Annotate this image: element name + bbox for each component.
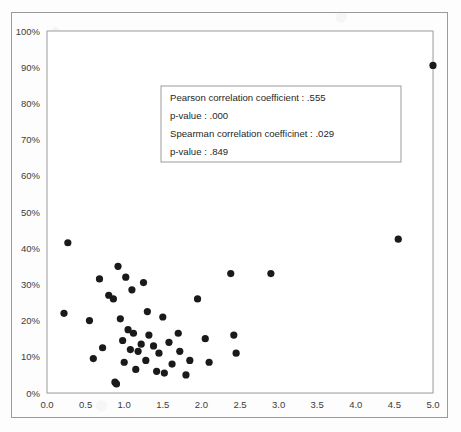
y-axis-tick-label: 50% — [21, 207, 41, 218]
y-axis-tick-label: 40% — [21, 243, 41, 254]
x-axis-tick-label: 5.0 — [426, 399, 439, 410]
data-point-marker — [267, 270, 274, 277]
x-axis-tick-label: 2.5 — [233, 399, 246, 410]
data-point-marker — [176, 348, 183, 355]
data-point-marker — [150, 342, 157, 349]
figure-page: 0%10%20%30%40%50%60%70%80%90%100% 0.00.5… — [0, 0, 461, 432]
data-point-marker — [86, 317, 93, 324]
data-point-marker — [90, 355, 97, 362]
data-point-marker — [138, 341, 145, 348]
data-point-marker — [395, 236, 402, 243]
data-point-marker — [165, 339, 172, 346]
x-axis-tick-labels: 0.00.51.01.52.02.53.03.54.04.55.0 — [40, 399, 439, 410]
data-point-marker — [233, 350, 240, 357]
y-axis-tick-label: 10% — [21, 351, 41, 362]
y-axis-tick-label: 0% — [26, 388, 40, 399]
data-point-marker — [168, 360, 175, 367]
data-point-marker — [142, 357, 149, 364]
data-point-marker — [130, 330, 137, 337]
data-point-marker — [134, 348, 141, 355]
annotation-line-pearson: Pearson correlation coefficient : .555 — [170, 92, 326, 103]
annotation-line-spearman-pvalue: p-value : .849 — [170, 146, 228, 157]
data-point-marker — [144, 308, 151, 315]
data-point-marker — [429, 62, 436, 69]
data-point-marker — [132, 366, 139, 373]
data-point-marker — [155, 350, 162, 357]
data-point-marker — [122, 274, 129, 281]
x-axis-tick-label: 0.5 — [79, 399, 92, 410]
data-point-marker — [60, 310, 67, 317]
data-point-marker — [194, 295, 201, 302]
y-axis-tick-labels: 0%10%20%30%40%50%60%70%80%90%100% — [16, 26, 41, 399]
annotation-line-pearson-pvalue: p-value : .000 — [170, 110, 228, 121]
x-axis-tick-label: 1.5 — [156, 399, 169, 410]
data-point-marker — [113, 380, 120, 387]
data-point-marker — [227, 270, 234, 277]
annotation-line-spearman: Spearman correlation coefficinet : .029 — [170, 128, 334, 139]
y-axis-tick-label: 30% — [21, 279, 41, 290]
x-axis-tick-label: 3.5 — [311, 399, 324, 410]
data-point-marker — [64, 239, 71, 246]
x-axis-tick-label: 2.0 — [195, 399, 208, 410]
data-point-marker — [117, 315, 124, 322]
data-point-marker — [110, 295, 117, 302]
data-point-marker — [145, 331, 152, 338]
scatter-chart: 0%10%20%30%40%50%60%70%80%90%100% 0.00.5… — [0, 0, 461, 432]
statistics-annotation-box: Pearson correlation coefficient : .555 p… — [161, 86, 401, 162]
data-point-marker — [186, 357, 193, 364]
x-axis-tick-label: 1.0 — [118, 399, 131, 410]
y-axis-tick-label: 80% — [21, 98, 41, 109]
y-axis-tick-label: 70% — [21, 134, 41, 145]
x-axis-tick-label: 0.0 — [40, 399, 53, 410]
x-axis-tick-label: 4.0 — [349, 399, 362, 410]
data-point-marker — [202, 335, 209, 342]
data-point-marker — [96, 275, 103, 282]
data-point-marker — [121, 359, 128, 366]
y-axis-tick-label: 90% — [21, 62, 41, 73]
data-point-marker — [153, 368, 160, 375]
data-point-marker — [206, 359, 213, 366]
y-axis-tick-label: 20% — [21, 315, 41, 326]
data-point-marker — [161, 369, 168, 376]
data-point-marker — [128, 286, 135, 293]
data-point-marker — [159, 313, 166, 320]
data-point-marker — [119, 337, 126, 344]
data-point-marker — [127, 346, 134, 353]
data-point-marker — [175, 330, 182, 337]
data-point-marker — [140, 279, 147, 286]
y-axis-tick-label: 100% — [16, 26, 41, 37]
data-point-marker — [230, 331, 237, 338]
x-axis-tick-label: 4.5 — [388, 399, 401, 410]
data-point-marker — [182, 371, 189, 378]
plot-area-border — [47, 31, 433, 393]
x-axis-tick-label: 3.0 — [272, 399, 285, 410]
data-point-marker — [114, 263, 121, 270]
data-point-marker — [99, 344, 106, 351]
scatter-plot-svg: 0%10%20%30%40%50%60%70%80%90%100% 0.00.5… — [0, 0, 461, 432]
y-axis-tick-label: 60% — [21, 170, 41, 181]
